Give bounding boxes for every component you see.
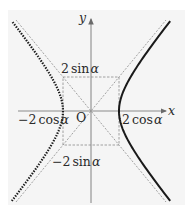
label-neg-2cos-alpha: −2cosα — [18, 112, 69, 127]
label-2cos-alpha: 2cosα — [122, 112, 163, 127]
x-axis-label: x — [168, 103, 175, 118]
hyperbola-diagram: y x O 2sinα −2sinα −2cosα 2cosα — [0, 0, 193, 216]
y-axis-label: y — [78, 10, 87, 25]
label-neg-2sin-alpha: −2sinα — [52, 154, 101, 169]
label-2sin-alpha: 2sinα — [61, 61, 99, 76]
origin-label: O — [76, 110, 86, 125]
